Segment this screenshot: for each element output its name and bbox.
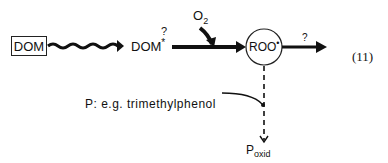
wavy-arrow [48, 44, 118, 48]
oxygen-label: O2 [193, 9, 208, 26]
product-label: Poxid [246, 144, 271, 159]
wavy-arrow-head [117, 40, 124, 52]
output-question: ? [302, 33, 308, 43]
main-arrow-head [236, 41, 246, 53]
output-arrow-head [316, 41, 327, 53]
probe-arrow [222, 93, 262, 104]
radical-label: ROO• [249, 41, 280, 53]
probe-label: P: e.g. trimethylphenol [85, 98, 216, 110]
dom-box: DOM [11, 36, 47, 56]
excited-dom-label: DOM* [131, 40, 165, 53]
excited-question: ? [161, 26, 167, 37]
equation-number: (11) [352, 50, 373, 63]
